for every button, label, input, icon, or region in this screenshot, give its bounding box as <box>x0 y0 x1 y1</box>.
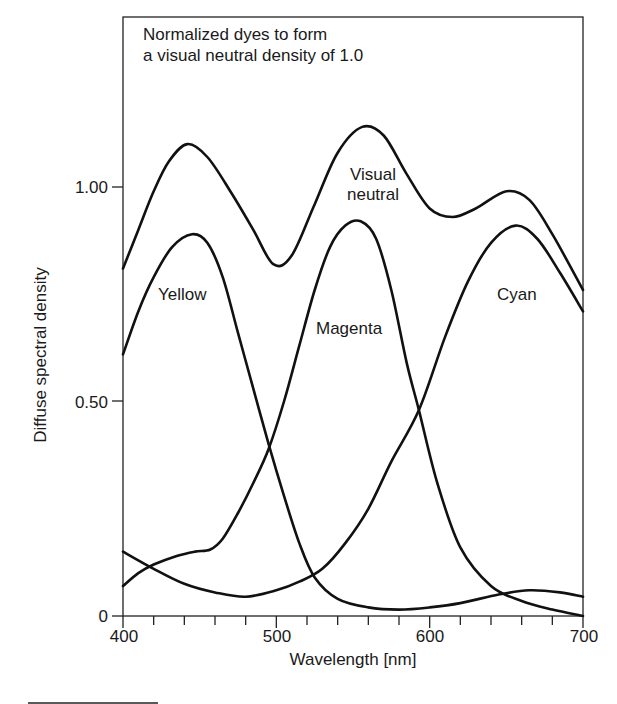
chart-title-line1: Normalized dyes to form <box>143 25 327 44</box>
cyan-dye-curve <box>123 226 583 597</box>
x-axis-title: Wavelength [nm] <box>290 650 417 669</box>
magenta-label: Magenta <box>316 319 383 338</box>
spectral-density-chart: 0 0.50 1.00 400 500 600 700 Wavelength [… <box>0 0 617 704</box>
visual-neutral-curve <box>123 126 583 290</box>
y-axis-title: Diffuse spectral density <box>31 267 50 443</box>
cyan-label: Cyan <box>497 285 537 304</box>
plot-frame <box>123 17 583 616</box>
y-tick-label-0: 0 <box>99 607 108 626</box>
yellow-label: Yellow <box>158 285 207 304</box>
visual-neutral-label-line2: neutral <box>347 185 399 204</box>
chart-title-line2: a visual neutral density of 1.0 <box>143 46 363 65</box>
x-tick-label-400: 400 <box>110 627 138 646</box>
y-tick-label-050: 0.50 <box>75 393 108 412</box>
visual-neutral-label-line1: Visual <box>350 165 396 184</box>
x-tick-label-700: 700 <box>570 627 598 646</box>
x-axis-ticks <box>123 616 583 628</box>
x-tick-label-500: 500 <box>263 627 291 646</box>
y-tick-label-100: 1.00 <box>75 178 108 197</box>
magenta-dye-curve <box>123 220 583 616</box>
x-tick-label-600: 600 <box>416 627 444 646</box>
